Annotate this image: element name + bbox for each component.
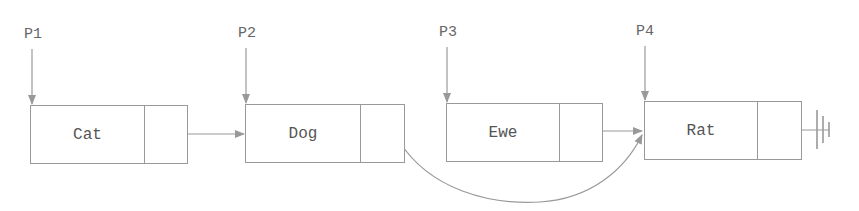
node-rat: Rat — [644, 101, 802, 160]
node-dog: Dog — [245, 104, 405, 163]
pointer-label-p1: P1 — [24, 26, 42, 43]
node-cat: Cat — [30, 105, 188, 164]
pointer-label-p3: P3 — [439, 24, 457, 41]
next-field — [757, 102, 758, 159]
node-value: Rat — [645, 102, 757, 159]
node-value: Ewe — [447, 104, 559, 161]
node-value: Cat — [31, 106, 144, 163]
next-field — [360, 105, 361, 162]
pointer-label-p2: P2 — [238, 25, 256, 42]
pointer-label-p4: P4 — [636, 23, 654, 40]
next-field — [559, 104, 560, 161]
node-ewe: Ewe — [446, 103, 603, 162]
node-value: Dog — [246, 105, 360, 162]
next-field — [144, 106, 145, 163]
